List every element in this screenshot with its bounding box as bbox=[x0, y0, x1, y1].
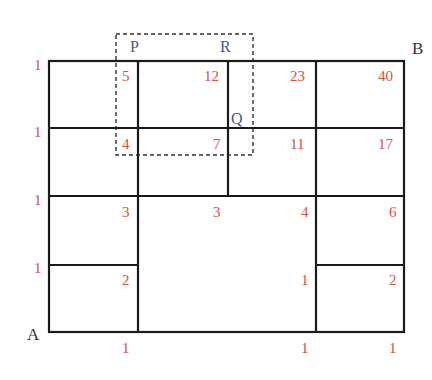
cell-r3-c1: 3 bbox=[122, 204, 130, 220]
grid-diagram: A B P R Q 1 1 1 1 5 12 23 40 4 7 11 17 3… bbox=[0, 0, 432, 380]
bottom-count-1: 1 bbox=[122, 340, 130, 356]
point-label-r: R bbox=[220, 38, 231, 55]
cell-r1-c1: 5 bbox=[122, 68, 130, 84]
left-count-2: 1 bbox=[34, 124, 42, 140]
corner-label-a: A bbox=[27, 325, 40, 344]
left-count-4: 1 bbox=[34, 260, 42, 276]
cell-r4-c3: 1 bbox=[301, 272, 309, 288]
left-count-3: 1 bbox=[34, 192, 42, 208]
cell-r4-c4: 2 bbox=[389, 272, 397, 288]
cell-r2-c2: 7 bbox=[213, 136, 221, 152]
cell-r3-c3: 4 bbox=[301, 204, 309, 220]
cell-r2-c3: 11 bbox=[290, 136, 304, 152]
cell-r1-c3: 23 bbox=[290, 68, 305, 84]
cell-r2-c1: 4 bbox=[122, 136, 130, 152]
left-count-1: 1 bbox=[34, 57, 42, 73]
bottom-count-3: 1 bbox=[389, 340, 397, 356]
corner-label-b: B bbox=[412, 39, 423, 58]
cell-r3-c4: 6 bbox=[389, 204, 397, 220]
cell-r3-c2: 3 bbox=[213, 204, 221, 220]
point-label-q: Q bbox=[231, 110, 243, 127]
cell-r2-c4: 17 bbox=[378, 136, 394, 152]
cell-r1-c2: 12 bbox=[204, 68, 219, 84]
cell-r1-c4: 40 bbox=[378, 68, 393, 84]
bottom-count-2: 1 bbox=[301, 340, 309, 356]
point-label-p: P bbox=[130, 38, 139, 55]
cell-r4-c1: 2 bbox=[122, 272, 130, 288]
